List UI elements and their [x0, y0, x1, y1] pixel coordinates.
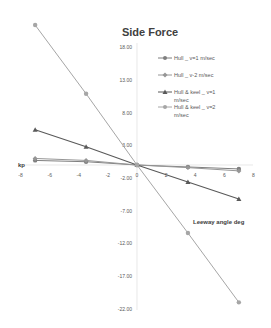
- x-tick-label: 0: [136, 172, 139, 178]
- x-tick-label: -8: [18, 172, 23, 178]
- svg-text:Hull _ v=1 m/sec: Hull _ v=1 m/sec: [174, 55, 215, 61]
- x-tick-labels: -8-6-4-202468: [18, 172, 255, 178]
- legend-item-hull-keel-v2: Hull & keel _ v=2 m/sec: [158, 104, 215, 118]
- svg-text:Hull _ v-2 m/sec: Hull _ v-2 m/sec: [174, 72, 214, 78]
- y-tick-label: -7.00: [121, 208, 133, 214]
- y-tick-label: -17.00: [118, 273, 132, 279]
- legend: Hull _ v=1 m/sec Hull _ v-2 m/sec Hull &…: [158, 55, 215, 118]
- circle-marker-icon: [84, 92, 88, 96]
- triangle-marker-icon: [33, 127, 38, 132]
- side-force-chart: Side Force 18.0013.008.003.00-2.00-7.00-…: [0, 0, 271, 328]
- x-tick-label: -4: [77, 172, 82, 178]
- x-tick-label: 6: [223, 172, 226, 178]
- circle-marker-icon: [237, 300, 241, 304]
- legend-item-hull-v1: Hull _ v=1 m/sec: [158, 55, 215, 61]
- x-tick-label: -6: [47, 172, 52, 178]
- circle-marker-icon: [186, 231, 190, 235]
- circle-marker-icon: [163, 105, 167, 109]
- x-tick-label: 8: [252, 172, 255, 178]
- y-tick-labels: 18.0013.008.003.00-2.00-7.00-12.00-17.00…: [118, 44, 132, 312]
- svg-text:m/sec: m/sec: [174, 112, 189, 118]
- circle-marker-icon: [163, 56, 167, 60]
- legend-item-hull-keel-v1: Hull & keel _ v=1 m/sec: [158, 89, 215, 103]
- circle-marker-icon: [33, 23, 37, 27]
- y-tick-label: 13.00: [119, 77, 132, 83]
- y-tick-label: 18.00: [119, 44, 132, 50]
- y-tick-label: -2.00: [121, 175, 133, 181]
- x-tick-label: -2: [106, 172, 111, 178]
- chart-title: Side Force: [122, 26, 178, 38]
- y-tick-label: -22.00: [118, 306, 132, 312]
- svg-text:Hull & keel _ v=1: Hull & keel _ v=1: [174, 89, 215, 95]
- x-tick-label: 4: [194, 172, 197, 178]
- y-tick-label: 8.00: [122, 110, 132, 116]
- svg-text:m/sec: m/sec: [174, 97, 189, 103]
- diamond-marker-icon: [163, 73, 168, 78]
- svg-text:Hull & keel _ v=2: Hull & keel _ v=2: [174, 104, 215, 110]
- y-tick-label: 3.00: [122, 142, 132, 148]
- legend-item-hull-v2: Hull _ v-2 m/sec: [158, 72, 214, 78]
- circle-marker-icon: [135, 163, 139, 167]
- x-axis-title: Leeway angle deg: [193, 219, 245, 225]
- y-axis-title: kp: [18, 162, 25, 168]
- y-tick-label: -12.00: [118, 240, 132, 246]
